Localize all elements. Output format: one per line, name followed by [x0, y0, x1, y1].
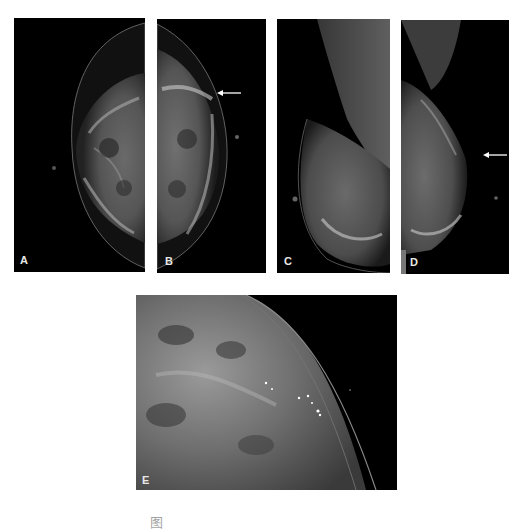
panel-a-mammogram: A [14, 18, 145, 272]
panel-label-c: C [284, 255, 292, 267]
breast-tissue-image-a [14, 18, 145, 272]
arrow-icon-panel-d [483, 150, 507, 160]
breast-tissue-image-b [157, 19, 266, 273]
panel-b-mammogram: B [157, 19, 266, 273]
panel-label-d: D [410, 256, 418, 268]
magnified-tissue-image-e [136, 295, 397, 490]
arrow-icon-panel-b [217, 88, 241, 98]
figure-caption: 图 [150, 512, 410, 532]
breast-tissue-image-c [277, 19, 390, 273]
panel-e-magnified-view: E [136, 295, 397, 490]
breast-tissue-image-d [401, 20, 509, 274]
panel-label-e: E [142, 474, 149, 486]
panel-label-a: A [20, 254, 28, 266]
panel-d-mammogram: D [401, 20, 509, 274]
panel-label-b: B [165, 255, 173, 267]
panel-c-mammogram: C [277, 19, 390, 273]
